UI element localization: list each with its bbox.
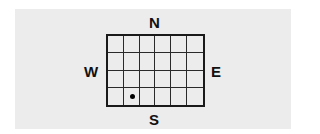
grid-cell	[140, 53, 156, 70]
grid-cell	[155, 88, 171, 105]
grid-cell	[108, 88, 124, 105]
grid-cell	[187, 88, 203, 105]
grid-cell	[187, 53, 203, 70]
grid-cell	[108, 36, 124, 53]
grid-map	[106, 34, 205, 107]
position-marker-dot	[130, 94, 135, 99]
grid-cell	[140, 71, 156, 88]
south-label: S	[149, 112, 159, 127]
grid-cell	[108, 71, 124, 88]
grid-cell	[187, 36, 203, 53]
grid-cell	[140, 36, 156, 53]
grid-cell	[124, 36, 140, 53]
grid-cell	[155, 36, 171, 53]
grid-cell	[171, 36, 187, 53]
grid-cell	[155, 53, 171, 70]
grid-cell	[187, 71, 203, 88]
grid-cell	[171, 53, 187, 70]
grid-cell	[171, 71, 187, 88]
north-label: N	[149, 15, 160, 30]
grid-cell	[124, 53, 140, 70]
grid-cell	[155, 71, 171, 88]
grid-cell	[171, 88, 187, 105]
west-label: W	[84, 64, 98, 79]
grid-cell	[108, 53, 124, 70]
east-label: E	[211, 64, 221, 79]
grid-cell	[124, 88, 140, 105]
grid-cell	[124, 71, 140, 88]
grid-cell	[140, 88, 156, 105]
